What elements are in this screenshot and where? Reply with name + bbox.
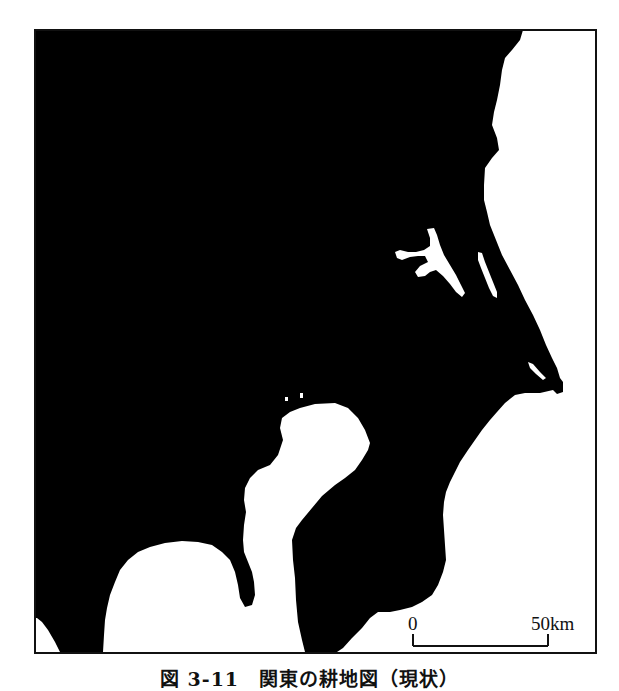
urban-speck xyxy=(293,413,296,417)
scale-end-label: 50km xyxy=(531,614,574,633)
urban-speck xyxy=(285,397,288,401)
scale-start-label: 0 xyxy=(408,614,418,633)
urban-speck xyxy=(300,393,303,398)
figure-caption: 図 3-11 関東の耕地図（現状） xyxy=(0,664,619,691)
